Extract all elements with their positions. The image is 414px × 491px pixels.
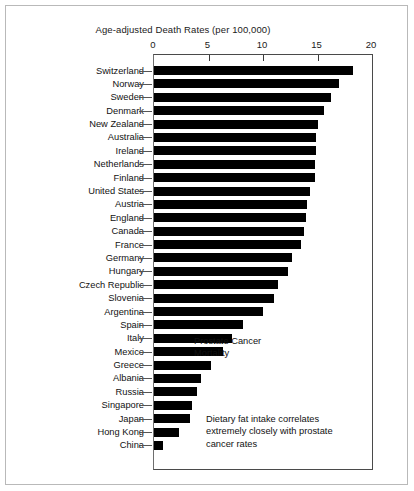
bar-row: Greece <box>6 360 404 373</box>
x-axis-tick-10 <box>263 55 264 61</box>
category-label: Hong Kong <box>97 427 144 437</box>
tick-leader-line <box>139 97 152 98</box>
x-axis-tick-5 <box>209 55 210 61</box>
bar-row: Australia <box>6 132 404 145</box>
bar <box>154 173 315 182</box>
bar <box>154 133 316 142</box>
bar-row: Slovenia <box>6 293 404 306</box>
bar <box>154 307 263 316</box>
x-tick-label-15: 15 <box>311 39 322 50</box>
tick-leader-line <box>139 124 152 125</box>
bar-row: Norway <box>6 78 404 91</box>
tick-leader-line <box>139 325 152 326</box>
tick-leader-line <box>139 111 152 112</box>
tick-leader-line <box>139 419 152 420</box>
bar <box>154 441 163 450</box>
bar <box>154 79 339 88</box>
x-tick-label-5: 5 <box>205 39 210 50</box>
bar <box>154 253 292 262</box>
tick-leader-line <box>139 71 152 72</box>
bar-row: New Zealand <box>6 119 404 132</box>
category-label: Switzerland <box>96 66 144 76</box>
bar <box>154 200 307 209</box>
bar-row: Argentina <box>6 306 404 319</box>
category-label: Netherlands <box>94 159 144 169</box>
tick-leader-line <box>139 137 152 138</box>
tick-leader-line <box>139 338 152 339</box>
tick-leader-line <box>139 271 152 272</box>
bar-row: Japan <box>6 413 404 426</box>
bar-row: Russia <box>6 386 404 399</box>
bar-row: Albania <box>6 373 404 386</box>
x-axis-tick-labels: 05101520 <box>6 39 404 51</box>
tick-leader-line <box>139 218 152 219</box>
tick-leader-line <box>139 298 152 299</box>
category-label: United States <box>88 186 144 196</box>
bar-row: Germany <box>6 252 404 265</box>
bar <box>154 387 197 396</box>
bar <box>154 414 190 423</box>
bar-row: England <box>6 212 404 225</box>
tick-leader-line <box>139 285 152 286</box>
tick-leader-line <box>139 245 152 246</box>
tick-leader-line <box>139 365 152 366</box>
tick-leader-line <box>139 405 152 406</box>
tick-leader-line <box>139 164 152 165</box>
tick-leader-line <box>139 312 152 313</box>
category-label: Czech Republic <box>79 280 144 290</box>
bar-row: Spain <box>6 319 404 332</box>
bar <box>154 280 278 289</box>
bar <box>154 227 304 236</box>
tick-leader-line <box>139 392 152 393</box>
x-axis-tick-15 <box>318 55 319 61</box>
bar-row: United States <box>6 186 404 199</box>
bar-row: Canada <box>6 226 404 239</box>
bar <box>154 361 211 370</box>
x-tick-label-0: 0 <box>150 39 155 50</box>
bar-rows: SwitzerlandNorwaySwedenDenmarkNew Zealan… <box>6 65 404 453</box>
tick-leader-line <box>139 432 152 433</box>
tick-leader-line <box>139 151 152 152</box>
annotation-chart-title: Prostate Cancer Mortality <box>194 335 261 360</box>
tick-leader-line <box>139 84 152 85</box>
x-tick-label-10: 10 <box>257 39 268 50</box>
tick-leader-line <box>139 191 152 192</box>
bar-row: Netherlands <box>6 159 404 172</box>
bar <box>154 160 315 169</box>
bar <box>154 66 353 75</box>
bar-row: Hong Kong <box>6 427 404 440</box>
bar <box>154 374 201 383</box>
tick-leader-line <box>139 178 152 179</box>
bar <box>154 213 306 222</box>
bar-row: Singapore <box>6 400 404 413</box>
bar-row: France <box>6 239 404 252</box>
bar <box>154 93 331 102</box>
bar-row: Czech Republic <box>6 279 404 292</box>
bar <box>154 320 243 329</box>
category-label: Singapore <box>102 400 144 410</box>
bar-row: Finland <box>6 172 404 185</box>
category-label: New Zealand <box>89 119 144 129</box>
bar <box>154 401 192 410</box>
chart-figure: Age-adjusted Death Rates (per 100,000) 0… <box>5 5 408 485</box>
bar <box>154 106 324 115</box>
bar <box>154 428 179 437</box>
bar-row: Ireland <box>6 145 404 158</box>
bar <box>154 240 301 249</box>
tick-leader-line <box>139 378 152 379</box>
tick-leader-line <box>139 204 152 205</box>
bar-row: Sweden <box>6 92 404 105</box>
bar <box>154 267 288 276</box>
tick-leader-line <box>139 258 152 259</box>
bar-row: Switzerland <box>6 65 404 78</box>
annotation-note: Dietary fat intake correlates extremely … <box>206 413 333 450</box>
bar <box>154 187 310 196</box>
axis-title: Age-adjusted Death Rates (per 100,000) <box>58 24 308 35</box>
bar <box>154 146 316 155</box>
bar-row: China <box>6 440 404 453</box>
bar-row: Hungary <box>6 266 404 279</box>
tick-leader-line <box>139 231 152 232</box>
tick-leader-line <box>139 352 152 353</box>
bar <box>154 120 318 129</box>
bar-row: Denmark <box>6 105 404 118</box>
